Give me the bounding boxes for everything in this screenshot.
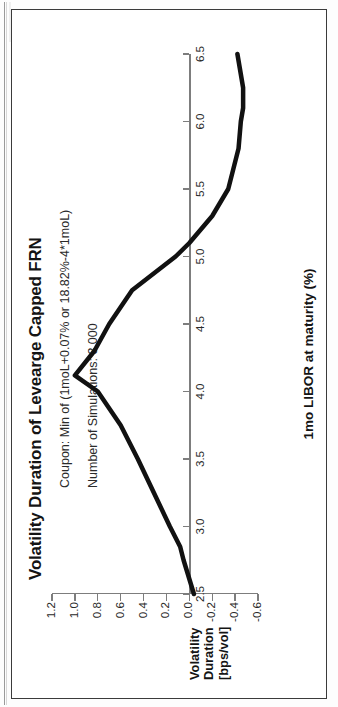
y-tick-label: 1.0 bbox=[67, 602, 80, 640]
rotated-figure-wrapper: Volatility Duration of Levearge Capped F… bbox=[11, 9, 327, 699]
chart-frame: Volatility Duration of Levearge Capped F… bbox=[11, 9, 327, 699]
y-tick-mark bbox=[212, 594, 213, 601]
y-tick-mark bbox=[97, 594, 98, 601]
y-tick-label: 0.6 bbox=[113, 602, 126, 640]
y-tick-mark bbox=[166, 594, 167, 601]
y-tick-mark bbox=[74, 594, 75, 601]
scan-edge-line bbox=[4, 2, 5, 705]
y-tick-mark bbox=[120, 594, 121, 601]
y-tick-label: -0.4 bbox=[227, 602, 240, 640]
y-tick-mark bbox=[51, 594, 52, 601]
x-axis-title: 1mo LIBOR at maturity (%) bbox=[301, 10, 316, 698]
y-tick-label: 1.2 bbox=[44, 602, 57, 640]
y-tick-label: 0.2 bbox=[158, 602, 171, 640]
plot-area: 1.21.00.80.60.40.20.0-0.2-0.4-0.6 2.53.0… bbox=[52, 54, 258, 594]
chart-title: Volatility Duration of Levearge Capped F… bbox=[26, 237, 46, 580]
y-tick-label: 0.8 bbox=[90, 602, 103, 640]
y-tick-label: -0.6 bbox=[250, 602, 263, 640]
y-tick-label: 0.4 bbox=[136, 602, 149, 640]
scanned-page: Volatility Duration of Levearge Capped F… bbox=[0, 0, 338, 707]
y-tick-mark bbox=[257, 594, 258, 601]
data-series-line bbox=[52, 54, 258, 594]
y-tick-mark bbox=[143, 594, 144, 601]
scan-edge-line-secondary bbox=[6, 2, 7, 705]
y-tick-mark bbox=[234, 594, 235, 601]
